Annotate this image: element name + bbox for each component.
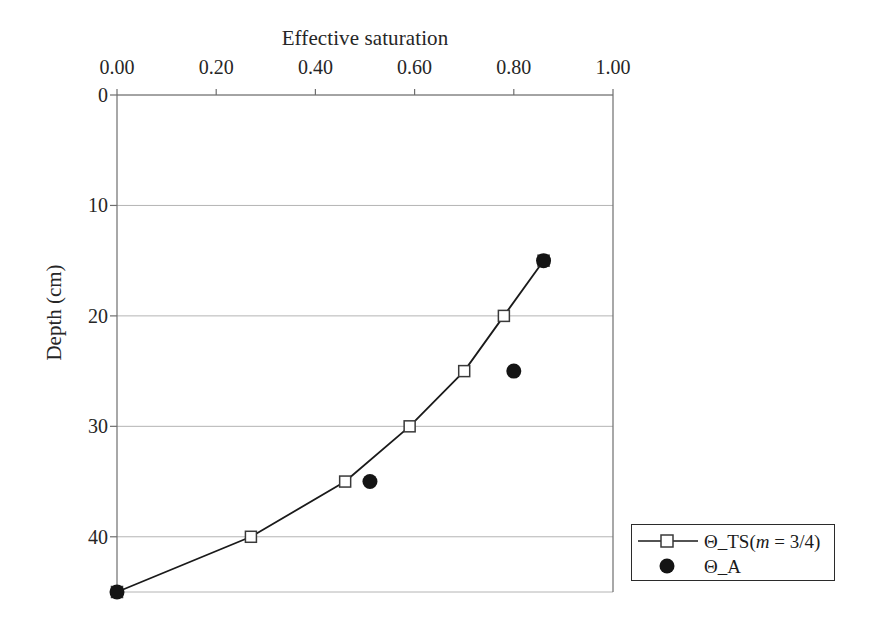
legend-entry-theta-ts: Θ_TS(m = 3/4) xyxy=(632,528,836,554)
y-tick-marks xyxy=(110,95,117,537)
legend-label-theta-ts-suffix: = 3/4) xyxy=(769,531,820,552)
data-point-marker-filled-circle xyxy=(536,253,551,268)
data-point-marker-filled-circle xyxy=(110,585,125,600)
data-point-marker-open-square xyxy=(340,476,351,487)
legend: Θ_TS(m = 3/4) Θ_A xyxy=(631,524,835,581)
x-tick-marks xyxy=(117,89,613,95)
data-point-marker-open-square xyxy=(459,366,470,377)
legend-key-filled-circle-icon xyxy=(632,554,704,578)
data-point-marker-open-square xyxy=(404,421,415,432)
chart-figure: Effective saturation 0.000.200.400.600.8… xyxy=(0,0,878,621)
legend-key-open-square-icon xyxy=(632,529,704,553)
data-point-marker-filled-circle xyxy=(362,474,377,489)
legend-entry-theta-a: Θ_A xyxy=(632,553,836,579)
data-point-marker-filled-circle xyxy=(506,364,521,379)
data-point-marker-open-square xyxy=(245,531,256,542)
legend-label-theta-ts: Θ_TS(m = 3/4) xyxy=(704,532,820,551)
data-point-marker-open-square xyxy=(498,310,509,321)
legend-label-theta-ts-prefix: Θ_TS( xyxy=(704,531,756,552)
legend-label-theta-ts-italic: m xyxy=(756,531,770,552)
legend-label-theta-a: Θ_A xyxy=(704,557,741,576)
gridlines xyxy=(117,95,613,537)
axis-lines xyxy=(117,95,613,592)
